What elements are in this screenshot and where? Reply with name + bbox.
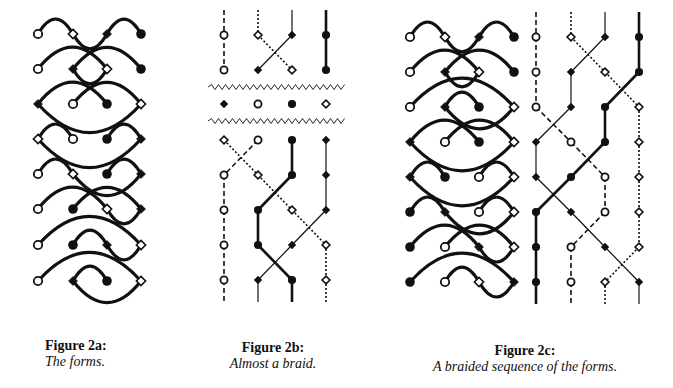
- open-circle-node: [475, 208, 483, 216]
- open-circle-node: [475, 173, 483, 181]
- zigzag-separator: [208, 119, 345, 124]
- filled-circle-node: [509, 32, 519, 42]
- open-diamond-node: [635, 208, 643, 216]
- caption-figure-2a: Figure 2a: The forms.: [45, 338, 125, 370]
- filled-circle-node: [102, 134, 112, 144]
- open-diamond-node: [635, 138, 643, 146]
- form-arc: [410, 142, 514, 171]
- filled-circle-node: [440, 172, 450, 182]
- caption-title: Figure 2c:: [415, 343, 635, 359]
- open-circle-node: [567, 278, 574, 285]
- filled-circle-node: [136, 29, 146, 39]
- caption-subtitle: A braided sequence of the forms.: [415, 359, 635, 375]
- form-arc: [38, 139, 141, 168]
- open-diamond-node: [635, 243, 643, 251]
- open-circle-node: [220, 276, 227, 283]
- open-circle-node: [532, 68, 539, 75]
- form-arc: [479, 22, 514, 37]
- open-diamond-node: [567, 33, 575, 41]
- form-arc: [410, 22, 445, 37]
- caption-figure-2b: Figure 2b: Almost a braid.: [218, 340, 328, 372]
- open-circle-node: [220, 171, 227, 178]
- open-circle-node: [69, 100, 77, 108]
- filled-circle-node: [254, 206, 262, 214]
- open-circle-node: [220, 31, 227, 38]
- filled-circle-node: [635, 68, 643, 76]
- form-arc: [479, 282, 514, 297]
- filled-circle-node: [635, 33, 643, 41]
- open-circle-node: [567, 138, 574, 145]
- form-arc: [445, 92, 479, 107]
- form-row: [34, 159, 146, 196]
- filled-diamond-node: [220, 100, 228, 108]
- form-row: [405, 197, 518, 234]
- open-circle-node: [69, 135, 77, 143]
- filled-circle-node: [288, 171, 296, 179]
- figure-2a-forms: [33, 19, 145, 303]
- open-circle-node: [34, 277, 42, 285]
- form-row: [34, 187, 146, 224]
- open-circle-node: [220, 66, 227, 73]
- filled-circle-node: [474, 102, 484, 112]
- form-arc: [107, 19, 141, 34]
- open-circle-node: [406, 68, 414, 76]
- open-circle-node: [441, 138, 449, 146]
- open-circle-node: [220, 206, 227, 213]
- figure-2b-almost-braid: [208, 10, 345, 302]
- open-circle-node: [34, 65, 42, 73]
- open-circle-node: [532, 103, 539, 110]
- caption-title: Figure 2a:: [45, 338, 125, 354]
- open-circle-node: [34, 241, 42, 249]
- filled-circle-node: [405, 242, 415, 252]
- caption-figure-2c: Figure 2c: A braided sequence of the for…: [415, 343, 635, 375]
- filled-circle-node: [102, 99, 112, 109]
- open-circle-node: [34, 170, 42, 178]
- form-arc: [38, 104, 141, 133]
- filled-circle-node: [601, 103, 609, 111]
- open-circle-node: [532, 33, 539, 40]
- form-row: [406, 22, 519, 52]
- open-circle-node: [34, 30, 42, 38]
- filled-circle-node: [532, 278, 540, 286]
- filled-circle-node: [102, 276, 112, 286]
- open-circle-node: [406, 33, 414, 41]
- zigzag-separator: [208, 85, 345, 90]
- figure-canvas: [0, 0, 673, 330]
- form-arc: [73, 266, 107, 281]
- form-row: [34, 19, 146, 49]
- filled-circle-node: [405, 277, 415, 287]
- form-arc: [73, 230, 107, 245]
- filled-circle-node: [474, 137, 484, 147]
- open-circle-node: [601, 208, 608, 215]
- open-circle-node: [441, 278, 449, 286]
- filled-circle-node: [288, 100, 296, 108]
- filled-circle-node: [322, 31, 330, 39]
- filled-diamond-node: [322, 171, 330, 179]
- filled-circle-node: [102, 169, 112, 179]
- open-circle-node: [601, 173, 608, 180]
- open-diamond-node: [635, 173, 643, 181]
- filled-circle-node: [532, 243, 540, 251]
- filled-circle-node: [509, 67, 519, 77]
- open-diamond-node: [322, 100, 330, 108]
- filled-circle-node: [405, 207, 415, 217]
- open-diamond-node: [220, 136, 228, 144]
- form-row: [405, 225, 518, 262]
- open-circle-node: [254, 100, 261, 107]
- figure-2c-braided-sequence: [405, 12, 643, 304]
- filled-circle-node: [136, 64, 146, 74]
- open-circle-node: [441, 243, 449, 251]
- form-row: [406, 50, 519, 87]
- filled-circle-node: [532, 208, 540, 216]
- form-arc: [445, 267, 479, 282]
- form-arc: [38, 19, 73, 34]
- form-row: [34, 47, 146, 84]
- open-circle-node: [567, 243, 574, 250]
- filled-circle-node: [68, 204, 78, 214]
- open-circle-node: [220, 241, 227, 248]
- caption-subtitle: Almost a braid.: [218, 356, 328, 372]
- filled-circle-node: [288, 136, 296, 144]
- caption-title: Figure 2b:: [218, 340, 328, 356]
- open-circle-node: [254, 136, 261, 143]
- filled-circle-node: [601, 138, 609, 146]
